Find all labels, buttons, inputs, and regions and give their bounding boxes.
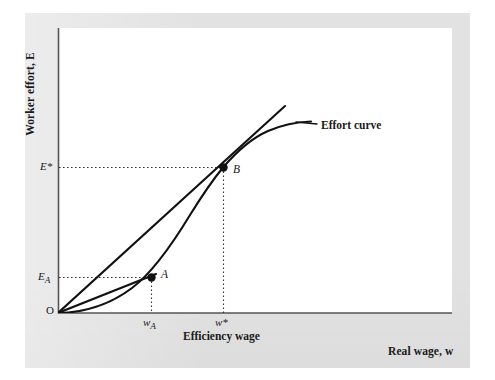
effort-curve-path (58, 122, 311, 314)
effort-curve-label: Effort curve (321, 119, 381, 131)
y-tick-e-a-base: E (38, 270, 45, 282)
y-tick-e-star-text: E* (40, 160, 52, 172)
effort-curve-chart (0, 0, 495, 380)
tangent-ray-through-B (58, 106, 285, 313)
y-tick-e-a-sub: A (45, 275, 51, 285)
x-axis-caption: Efficiency wage (183, 330, 260, 342)
data-point-label-b: B (233, 163, 240, 175)
x-tick-w-a-sub: A (150, 321, 156, 331)
y-tick-label-e-star: E* (40, 160, 52, 172)
x-tick-w-star-text: w* (215, 316, 228, 328)
x-tick-label-w-star: w* (215, 316, 228, 328)
x-tick-label-w-a: wA (143, 316, 156, 331)
figure-root: Worker effort, E Real wage, w Efficiency… (0, 0, 495, 380)
data-point-A-marker (147, 273, 155, 281)
data-point-label-a: A (161, 268, 168, 280)
effort-curve-leader-line (296, 122, 317, 124)
origin-label: O (46, 304, 54, 316)
y-tick-label-e-a: EA (38, 270, 50, 285)
y-axis-title: Worker effort, E (24, 34, 36, 154)
data-point-B-marker (219, 163, 227, 171)
x-axis-title: Real wage, w (388, 345, 453, 357)
